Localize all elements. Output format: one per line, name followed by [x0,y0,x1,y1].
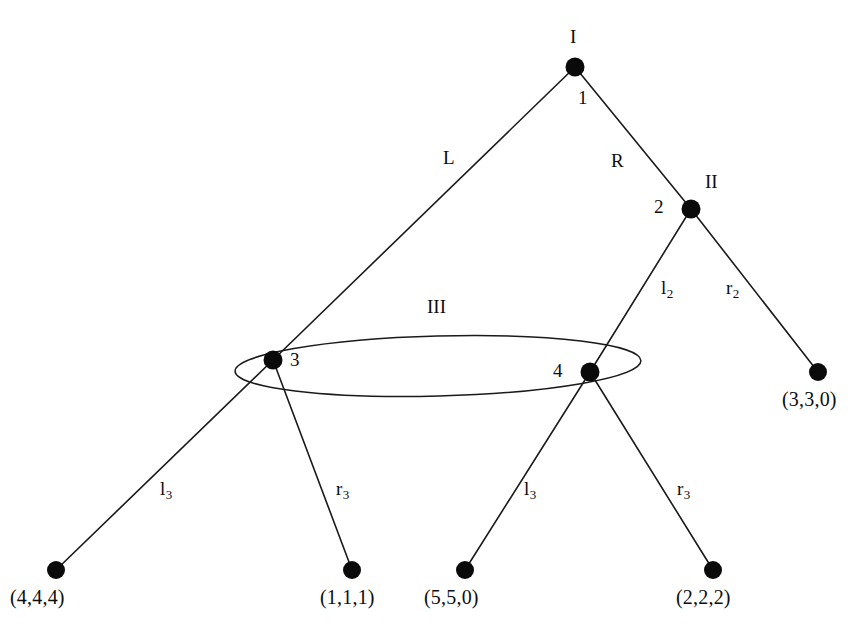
decision-node-2[interactable] [682,200,701,219]
edge-label-r3-right: r3 [677,479,690,498]
decision-node-1[interactable] [566,58,585,77]
edge-label-R-text: R [611,150,624,171]
edge-1-to-3 [273,67,575,360]
payoff-label-550: (5,5,0) [424,587,479,607]
terminal-node-1[interactable] [47,561,65,579]
terminal-node-3[interactable] [456,561,474,579]
information-set-label-iii: III [427,297,446,316]
terminal-node-4[interactable] [704,561,722,579]
edge-label-L: L [443,148,455,167]
node-number-2: 2 [654,197,664,216]
edge-label-R: R [611,151,624,170]
edge-label-r2: r2 [726,278,739,297]
edge-label-l3-left-sub: 3 [166,487,173,502]
node-number-3: 3 [290,350,300,369]
edge-label-r3-left-text: r [336,478,342,499]
edge-4-to-t4 [590,372,713,570]
edge-3-to-t2 [273,360,352,570]
player-label-i: I [570,27,576,46]
decision-node-4[interactable] [581,363,600,382]
edge-1-to-2 [575,67,691,209]
edge-label-r2-sub: 2 [733,286,740,301]
edge-label-L-text: L [443,147,455,168]
edge-label-l2-text: l [661,277,666,298]
node-number-1: 1 [578,88,588,107]
payoff-label-222: (2,2,2) [676,587,731,607]
edge-label-r3-left-sub: 3 [343,487,350,502]
payoff-label-330: (3,3,0) [782,389,837,409]
edge-label-r3-right-sub: 3 [684,487,691,502]
game-tree-figure: I II III 1 2 3 4 L R l2 r2 l3 r3 l3 r3 (… [0,0,863,641]
payoff-label-444: (4,4,4) [10,587,65,607]
terminal-node-2[interactable] [343,561,361,579]
node-number-4: 4 [553,361,563,380]
edge-label-l3-left-text: l [160,478,165,499]
edge-label-l3-right: l3 [524,479,536,498]
edge-4-to-t3 [465,372,590,570]
edge-label-l3-left: l3 [160,479,172,498]
decision-nodes [264,58,701,382]
edge-2-to-4 [590,209,691,372]
edge-label-r3-left: r3 [336,479,349,498]
edge-label-r3-right-text: r [677,478,683,499]
payoff-label-111: (1,1,1) [320,587,375,607]
edge-label-l2: l2 [661,278,673,297]
edge-3-to-t1 [56,360,273,570]
edge-2-to-t5 [691,209,818,372]
game-tree-canvas [0,0,863,641]
edge-label-l2-sub: 2 [667,286,674,301]
edge-label-l3-right-sub: 3 [530,487,537,502]
player-label-ii: II [705,172,718,191]
edge-label-r2-text: r [726,277,732,298]
terminal-node-5[interactable] [809,363,827,381]
decision-node-3[interactable] [264,351,283,370]
edge-label-l3-right-text: l [524,478,529,499]
